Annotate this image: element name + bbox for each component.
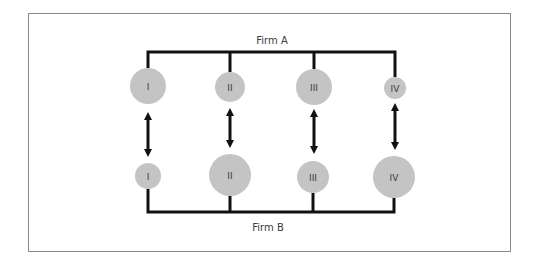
firm-a-bus xyxy=(148,52,395,77)
firm-a-unit-iii: III xyxy=(296,69,332,105)
svg-text:III: III xyxy=(309,173,317,183)
firm-a-unit-ii: II xyxy=(215,72,245,102)
firm-b-unit-iv: IV xyxy=(373,156,415,198)
svg-text:I: I xyxy=(147,82,150,92)
svg-text:IV: IV xyxy=(391,84,401,94)
firm-a-label: Firm A xyxy=(256,35,288,46)
firm-b-unit-iii: III xyxy=(297,161,329,193)
firm-b-unit-i: I xyxy=(135,163,161,189)
firm-b-unit-ii: II xyxy=(209,154,251,196)
svg-text:IV: IV xyxy=(390,173,400,183)
firm-b-label: Firm B xyxy=(252,222,284,233)
svg-text:II: II xyxy=(227,83,232,93)
firm-a-unit-iv: IV xyxy=(384,77,406,99)
firm-a-unit-i: I xyxy=(130,68,166,104)
svg-text:II: II xyxy=(227,171,232,181)
firm-b-bus xyxy=(148,189,394,212)
svg-text:I: I xyxy=(147,172,150,182)
firm-diagram: Firm A I II III IV I II III xyxy=(0,0,533,269)
svg-text:III: III xyxy=(310,83,318,93)
